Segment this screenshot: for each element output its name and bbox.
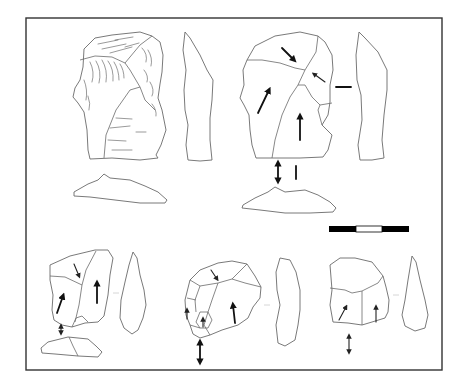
artifact-1-lateral-profile <box>183 32 213 161</box>
artifact-4-lateral-profile <box>276 258 300 346</box>
scale-bar <box>329 226 409 232</box>
artifact-2 <box>240 32 387 213</box>
scale-bar-segment-2 <box>356 226 382 232</box>
artifact-4-dorsal-view <box>185 261 261 338</box>
scale-bar-segment-1 <box>329 226 356 232</box>
artifact-4 <box>185 258 300 362</box>
artifact-1-platform-view <box>74 174 167 203</box>
artifact-5 <box>330 256 428 352</box>
artifact-5-lateral-profile <box>402 256 428 331</box>
artifact-1 <box>73 32 213 203</box>
artifact-2-lateral-profile <box>356 32 387 160</box>
artifact-3 <box>41 250 146 357</box>
lithic-figure <box>0 0 463 390</box>
artifact-2-dorsal-view <box>240 32 333 158</box>
artifact-2-platform-view <box>242 187 336 213</box>
artifact-3-lateral-profile <box>120 252 146 334</box>
artifact-3-platform-view <box>41 337 102 357</box>
scale-bar-segment-3 <box>382 226 409 232</box>
